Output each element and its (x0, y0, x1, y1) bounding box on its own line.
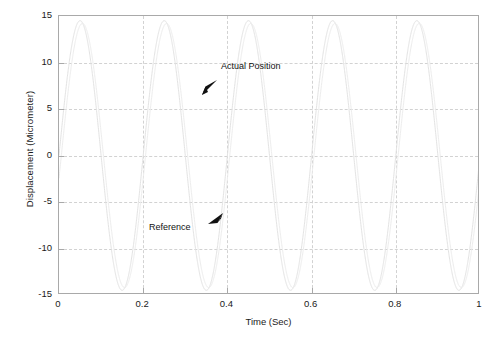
y-tick-label: -15 (6, 289, 52, 299)
annotation-label-actual-position: Actual Position (221, 61, 281, 71)
plot-area: Actual Position Reference (58, 15, 479, 294)
y-tick-label: 0 (6, 150, 52, 160)
annotation-arrow-reference (205, 211, 227, 231)
x-axis-title: Time (Sec) (58, 316, 479, 327)
annotation-arrow-actual-position (195, 78, 221, 100)
x-tick-label: 0.2 (122, 299, 162, 309)
annotation-label-reference: Reference (149, 222, 191, 232)
x-tick-mark (312, 288, 313, 293)
x-tick-label: 0.6 (291, 299, 331, 309)
x-tick-mark (227, 288, 228, 293)
x-tick-label: 1 (459, 299, 497, 309)
y-tick-mark (59, 249, 64, 250)
x-tick-label: 0.8 (375, 299, 415, 309)
y-tick-label: -5 (6, 196, 52, 206)
y-tick-mark (59, 109, 64, 110)
x-tick-label: 0.4 (206, 299, 246, 309)
y-tick-mark (59, 156, 64, 157)
x-tick-mark (396, 288, 397, 293)
y-tick-label: -10 (6, 243, 52, 253)
y-tick-label: 5 (6, 103, 52, 113)
y-tick-label: 10 (6, 57, 52, 67)
figure-canvas: Displacement (Micrometer) 15 10 5 0 -5 -… (0, 0, 497, 338)
series-curves (59, 16, 479, 294)
x-tick-label: 0 (38, 299, 78, 309)
y-tick-mark (59, 202, 64, 203)
y-tick-mark (59, 63, 64, 64)
x-tick-mark (143, 288, 144, 293)
x-axis-ticks: 0 0.2 0.4 0.6 0.8 1 (58, 299, 479, 313)
y-axis-ticks: 15 10 5 0 -5 -10 -15 (0, 15, 52, 294)
y-tick-label: 15 (6, 10, 52, 20)
